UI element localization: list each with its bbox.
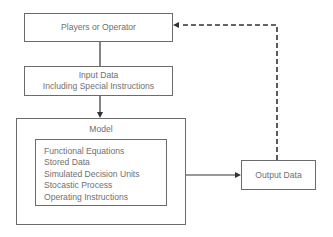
model-outer-box: Model Functional Equations Stored Data S… [16,118,186,225]
feedback-dashed-line [180,25,277,160]
model-item: Stored Data [44,157,140,168]
players-box: Players or Operator [24,13,173,42]
model-item: Functional Equations [44,146,140,157]
model-item: Simulated Decision Units [44,169,140,180]
output-data-label: Output Data [242,170,315,181]
players-label: Players or Operator [25,22,172,33]
input-data-subtitle: Including Special Instructions [25,81,172,92]
input-data-title: Input Data [25,70,172,81]
output-data-box: Output Data [241,160,316,190]
model-inner-box: Functional Equations Stored Data Simulat… [35,139,167,206]
model-title: Model [17,124,185,135]
arrow-head-left-icon [173,22,179,28]
model-item: Stocastic Process [44,180,140,191]
model-items-list: Functional Equations Stored Data Simulat… [44,146,140,203]
input-data-box: Input Data Including Special Instruction… [24,66,173,96]
model-item: Operating Instructions [44,192,140,203]
